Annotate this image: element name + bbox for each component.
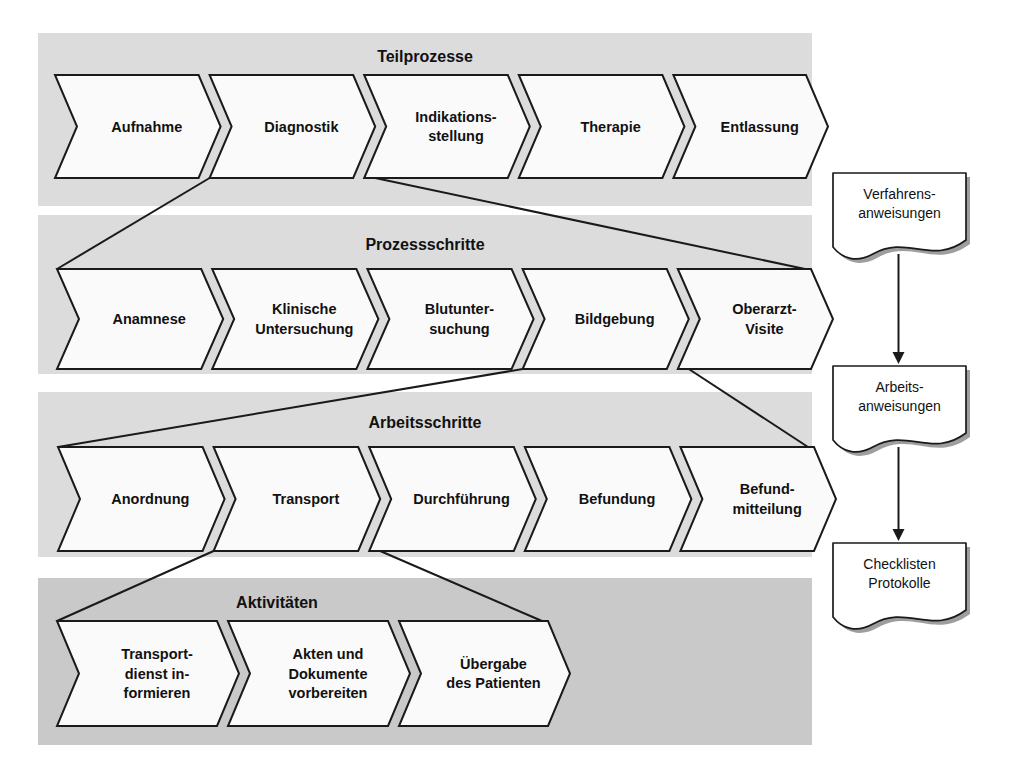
chevron-arbeitsschritte-3[interactable]: Durchführung (369, 447, 536, 551)
chevron-teilprozesse-4[interactable]: Therapie (519, 75, 685, 178)
chevron-prozessschritte-3[interactable]: Blutunter-suchung (367, 269, 533, 369)
chevron-label: Aufnahme (111, 119, 182, 135)
chevron-aktivitaeten-2[interactable]: Akten undDokumentevorbereiten (228, 621, 410, 726)
chevron-aktivitaeten-3[interactable]: Übergabedes Patienten (399, 621, 570, 726)
chevron-shape[interactable] (678, 269, 833, 369)
arrow-arbeitsanweisungen-to-checklisten (893, 447, 905, 541)
chevron-prozessschritte-1[interactable]: Anamnese (57, 269, 223, 369)
diagram-canvas: TeilprozesseProzessschritteArbeitsschrit… (0, 0, 1012, 780)
chevron-arbeitsschritte-2[interactable]: Transport (214, 447, 381, 551)
chevron-label: Therapie (580, 119, 640, 135)
chevron-teilprozesse-1[interactable]: Aufnahme (55, 75, 221, 178)
chevron-label: Anamnese (112, 311, 185, 327)
chevron-aktivitaeten-1[interactable]: Transport-dienst in-formieren (57, 621, 239, 726)
chevron-prozessschritte-2[interactable]: KlinischeUntersuchung (212, 269, 378, 369)
chevron-shape[interactable] (364, 75, 530, 178)
chevron-label: Akten undDokumentevorbereiten (289, 646, 368, 701)
chevron-label: Bildgebung (575, 311, 655, 327)
chevron-teilprozesse-3[interactable]: Indikations-stellung (364, 75, 530, 178)
chevron-label: Befundung (579, 491, 656, 507)
chevron-label: Diagnostik (264, 119, 339, 135)
band-title-teilprozesse: Teilprozesse (377, 48, 473, 65)
chevron-label: Entlassung (721, 119, 799, 135)
chevron-shape[interactable] (680, 447, 836, 551)
arrow-verfahrensanweisungen-to-arbeitsanweisungen (893, 254, 905, 364)
arrow-head-icon (893, 529, 905, 541)
chevron-arbeitsschritte-5[interactable]: Befund-mitteilung (680, 447, 836, 551)
arrow-head-icon (893, 352, 905, 364)
band-title-prozessschritte: Prozessschritte (365, 236, 484, 253)
chevron-label: Transport (272, 491, 339, 507)
document-verfahrensanweisungen[interactable]: Verfahrens-anweisungen (833, 173, 970, 263)
process-hierarchy-diagram: TeilprozesseProzessschritteArbeitsschrit… (0, 0, 1012, 780)
chevron-shape[interactable] (399, 621, 570, 726)
chevron-prozessschritte-5[interactable]: Oberarzt-Visite (678, 269, 833, 369)
document-arbeitsanweisungen[interactable]: Arbeits-anweisungen (833, 366, 970, 456)
chevron-shape[interactable] (367, 269, 533, 369)
chevron-shape[interactable] (212, 269, 378, 369)
chevron-arbeitsschritte-1[interactable]: Anordnung (58, 447, 225, 551)
band-title-arbeitsschritte: Arbeitsschritte (369, 413, 482, 430)
chevron-teilprozesse-5[interactable]: Entlassung (673, 75, 828, 178)
chevron-label: Durchführung (413, 491, 510, 507)
chevron-arbeitsschritte-4[interactable]: Befundung (525, 447, 692, 551)
document-checklisten[interactable]: ChecklistenProtokolle (833, 543, 970, 633)
chevron-label: Anordnung (111, 491, 189, 507)
chevron-label: Transport-dienst in-formieren (121, 646, 193, 701)
band-title-aktivitaeten: Aktivitäten (236, 593, 318, 610)
document-column: Verfahrens-anweisungenArbeits-anweisunge… (833, 173, 970, 633)
chevron-prozessschritte-4[interactable]: Bildgebung (523, 269, 689, 369)
chevron-teilprozesse-2[interactable]: Diagnostik (210, 75, 376, 178)
